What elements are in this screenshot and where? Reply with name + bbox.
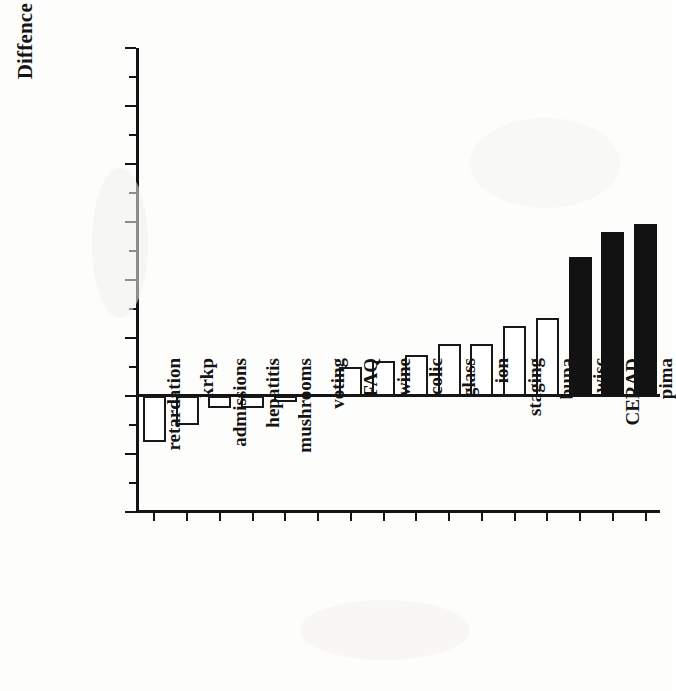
- x-tick: [383, 510, 385, 521]
- y-tick-minor: [129, 308, 136, 310]
- x-tick-label-wine: wine: [394, 358, 414, 528]
- y-tick-major: [125, 395, 136, 397]
- x-tick: [612, 510, 614, 521]
- x-tick-label-hepatitis: hepatitis: [263, 358, 283, 528]
- y-tick-minor: [129, 482, 136, 484]
- x-tick-label-mushrooms: mushrooms: [295, 358, 315, 528]
- x-tick-label-bupa: bupa: [557, 358, 577, 528]
- x-tick-label-ion: ion: [492, 358, 512, 528]
- x-tick-label-wisc: wisc: [590, 358, 610, 528]
- y-tick-major: [125, 163, 136, 165]
- x-tick-label-staging: staging: [525, 358, 545, 528]
- x-tick-label-retardation: retardation: [164, 358, 184, 528]
- y-tick-major: [125, 221, 136, 223]
- x-tick-label-admissions: admissions: [230, 358, 250, 528]
- x-tick: [415, 510, 417, 521]
- y-tick-minor: [129, 250, 136, 252]
- y-tick-minor: [129, 134, 136, 136]
- x-tick: [317, 510, 319, 521]
- x-tick-label-krkp: krkp: [197, 358, 217, 528]
- y-tick-minor: [129, 424, 136, 426]
- x-tick: [153, 510, 155, 521]
- y-tick-minor: [129, 366, 136, 368]
- plot-area: 0.060.050.040.030.020.010.00-0.01-0.02 r…: [136, 48, 660, 512]
- x-tick-label-pima: pima: [656, 358, 676, 528]
- x-tick: [514, 510, 516, 521]
- y-tick-major: [125, 337, 136, 339]
- x-tick: [579, 510, 581, 521]
- x-tick: [284, 510, 286, 521]
- y-tick-major: [125, 279, 136, 281]
- x-tick: [252, 510, 254, 521]
- x-tick-label-cerad: CERAD: [623, 358, 643, 528]
- x-tick: [350, 510, 352, 521]
- scan-artifact: [300, 600, 470, 660]
- x-tick: [219, 510, 221, 521]
- x-tick: [186, 510, 188, 521]
- y-tick-major: [125, 511, 136, 513]
- x-tick-label-faq: FAQ: [361, 358, 381, 528]
- y-tick-major: [125, 453, 136, 455]
- x-tick-label-colic: colic: [426, 358, 446, 528]
- y-tick-minor: [129, 76, 136, 78]
- x-tick: [481, 510, 483, 521]
- x-tick: [448, 510, 450, 521]
- y-axis-title: Diffence in Accuracy: [8, 0, 42, 154]
- x-tick: [546, 510, 548, 521]
- y-tick-minor: [129, 192, 136, 194]
- y-axis-line: [136, 48, 139, 512]
- x-tick-label-voting: voting: [328, 358, 348, 528]
- x-tick-label-glass: glass: [459, 358, 479, 528]
- y-tick-major: [125, 47, 136, 49]
- x-tick: [645, 510, 647, 521]
- y-tick-major: [125, 105, 136, 107]
